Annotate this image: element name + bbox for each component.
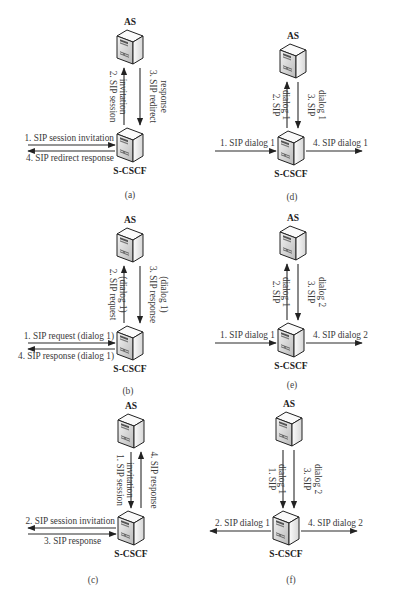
as-server-icon bbox=[276, 412, 302, 446]
vertical-label-line: 1. SIP session bbox=[115, 454, 125, 506]
vertical-label-line: dialog 1 bbox=[281, 90, 291, 121]
panel-d: ASS-CSCF(d)2. SIPdialog 13. SIPdialog 11… bbox=[215, 31, 368, 203]
vertical-label-line: 3. SIP bbox=[306, 94, 316, 117]
as-label: AS bbox=[287, 31, 299, 41]
vertical-arrow-label: 3. SIPdialog 2 bbox=[302, 464, 323, 495]
as-server-icon bbox=[118, 414, 144, 448]
horizontal-arrow-label: 3. SIP response bbox=[44, 536, 101, 546]
vertical-arrow-label: 1. SIP sessioninvitation bbox=[115, 454, 136, 506]
vertical-label-line: 2. SIP session bbox=[108, 71, 118, 123]
cscf-label: S-CSCF bbox=[113, 166, 146, 176]
horizontal-arrow-label: 4. SIP dialog 2 bbox=[313, 330, 368, 340]
vertical-arrow-label: 3. SIPdialog 2 bbox=[306, 277, 327, 308]
as-server-icon bbox=[117, 228, 143, 262]
horizontal-arrow-label: 1. SIP request (dialog 1) bbox=[24, 331, 114, 342]
panel-e: ASS-CSCF(e)2. SIPdialog 13. SIPdialog 21… bbox=[215, 213, 368, 391]
vertical-label-line: 2. SIP bbox=[271, 281, 281, 304]
vertical-label-line: dialog 1 bbox=[281, 277, 291, 308]
cscf-server-icon bbox=[117, 128, 143, 162]
vertical-label-line: invitation bbox=[125, 462, 135, 498]
panel-caption: (e) bbox=[287, 380, 298, 391]
vertical-arrow-label: 3. SIP redirectresponse bbox=[148, 70, 169, 124]
cscf-label: S-CSCF bbox=[274, 169, 307, 179]
horizontal-arrow-label: 4. SIP redirect response bbox=[26, 153, 114, 163]
as-label: AS bbox=[125, 401, 137, 411]
panel-c: ASS-CSCF(c)1. SIP sessioninvitation4. SI… bbox=[25, 401, 159, 586]
as-label: AS bbox=[124, 215, 136, 225]
vertical-arrow-label: 2. SIP sessioninvitation bbox=[108, 71, 129, 123]
vertical-label-line: 3. SIP bbox=[302, 468, 312, 491]
cscf-server-icon bbox=[117, 326, 143, 360]
vertical-label-line: 3. SIP response bbox=[148, 266, 158, 323]
horizontal-arrow-label: 4. SIP dialog 1 bbox=[313, 138, 368, 148]
vertical-label-line: invitation bbox=[118, 79, 128, 115]
vertical-label-line: dialog 2 bbox=[317, 277, 327, 308]
sip-diagram-figure: ASS-CSCF(a)2. SIP sessioninvitation3. SI… bbox=[0, 0, 393, 602]
vertical-arrow-label: 1. SIPdialog 1 bbox=[267, 464, 288, 495]
vertical-arrow-label: 2. SIPdialog 1 bbox=[271, 277, 292, 308]
cscf-label: S-CSCF bbox=[269, 549, 302, 559]
horizontal-arrow-label: 2. SIP session invitation bbox=[25, 516, 115, 526]
cscf-server-icon bbox=[278, 131, 304, 165]
vertical-label-line: (dialog 1) bbox=[158, 276, 169, 312]
as-label: AS bbox=[124, 17, 136, 27]
panel-caption: (f) bbox=[286, 575, 296, 586]
panel-caption: (d) bbox=[286, 192, 297, 203]
as-server-icon bbox=[117, 30, 143, 64]
cscf-server-icon bbox=[273, 511, 299, 545]
vertical-arrow-label: 4. SIP response bbox=[149, 451, 159, 508]
vertical-arrow-label: 3. SIP response(dialog 1) bbox=[148, 266, 169, 323]
cscf-server-icon bbox=[118, 511, 144, 545]
horizontal-arrow-label: 1. SIP dialog 1 bbox=[220, 330, 275, 340]
vertical-label-line: 2. SIP bbox=[271, 94, 281, 117]
vertical-label-line: dialog 2 bbox=[313, 464, 323, 495]
vertical-label-line: response bbox=[159, 80, 169, 113]
vertical-label-line: 3. SIP redirect bbox=[148, 70, 158, 124]
horizontal-arrow-label: 1. SIP session invitation bbox=[24, 133, 114, 143]
vertical-arrow-label: 2. SIPdialog 1 bbox=[271, 90, 292, 121]
as-server-icon bbox=[280, 226, 306, 260]
vertical-arrow-label: 3. SIPdialog 1 bbox=[306, 90, 327, 121]
panel-b: ASS-CSCF(b)2. SIP request(dialog 1)3. SI… bbox=[18, 215, 168, 397]
vertical-label-line: (dialog 1) bbox=[117, 276, 128, 312]
panel-caption: (c) bbox=[88, 575, 99, 586]
cscf-label: S-CSCF bbox=[114, 549, 147, 559]
vertical-label-line: 4. SIP response bbox=[149, 451, 159, 508]
cscf-label: S-CSCF bbox=[274, 361, 307, 371]
panel-a: ASS-CSCF(a)2. SIP sessioninvitation3. SI… bbox=[24, 17, 168, 201]
horizontal-arrow-label: 4. SIP response (dialog 1) bbox=[18, 351, 114, 362]
vertical-arrow-label: 2. SIP request(dialog 1) bbox=[108, 269, 129, 321]
as-label: AS bbox=[283, 399, 295, 409]
panel-caption: (b) bbox=[122, 386, 133, 397]
as-server-icon bbox=[280, 44, 306, 78]
horizontal-arrow-label: 2. SIP dialog 1 bbox=[215, 518, 270, 528]
vertical-label-line: 2. SIP request bbox=[108, 269, 118, 321]
vertical-label-line: 3. SIP bbox=[306, 281, 316, 304]
vertical-label-line: 1. SIP bbox=[267, 468, 277, 491]
as-label: AS bbox=[287, 213, 299, 223]
cscf-server-icon bbox=[278, 323, 304, 357]
vertical-label-line: dialog 1 bbox=[277, 464, 287, 495]
vertical-label-line: dialog 1 bbox=[317, 90, 327, 121]
horizontal-arrow-label: 4. SIP dialog 2 bbox=[308, 518, 363, 528]
horizontal-arrow-label: 1. SIP dialog 1 bbox=[220, 138, 275, 148]
cscf-label: S-CSCF bbox=[113, 364, 146, 374]
panel-caption: (a) bbox=[125, 190, 136, 201]
panel-f: ASS-CSCF(f)1. SIPdialog 13. SIPdialog 22… bbox=[210, 399, 363, 586]
